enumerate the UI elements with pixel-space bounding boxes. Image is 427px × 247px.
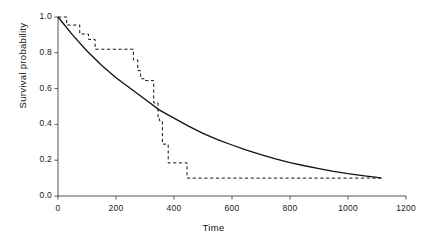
series-fitted-exponential-survival xyxy=(58,17,381,178)
series-kaplan-meier-step-survival xyxy=(58,17,381,178)
x-tick-label: 600 xyxy=(212,203,252,213)
x-tick-label: 0 xyxy=(38,203,78,213)
x-tick-label: 1200 xyxy=(386,203,426,213)
y-tick-label: 0.0 xyxy=(18,190,52,200)
y-tick-label: 0.2 xyxy=(18,154,52,164)
x-tick-label: 800 xyxy=(270,203,310,213)
x-tick-label: 200 xyxy=(96,203,136,213)
x-tick-label: 400 xyxy=(154,203,194,213)
x-tick-label: 1000 xyxy=(328,203,368,213)
axes-group xyxy=(55,17,407,200)
x-axis-ticks xyxy=(58,196,406,200)
survival-plot-figure: 0.00.20.40.60.81.0 020040060080010001200… xyxy=(0,0,427,247)
y-axis-ticks xyxy=(55,17,59,196)
y-axis-title: Survival probability xyxy=(17,0,28,136)
x-axis-title: Time xyxy=(0,222,427,233)
data-series-group xyxy=(58,17,381,178)
